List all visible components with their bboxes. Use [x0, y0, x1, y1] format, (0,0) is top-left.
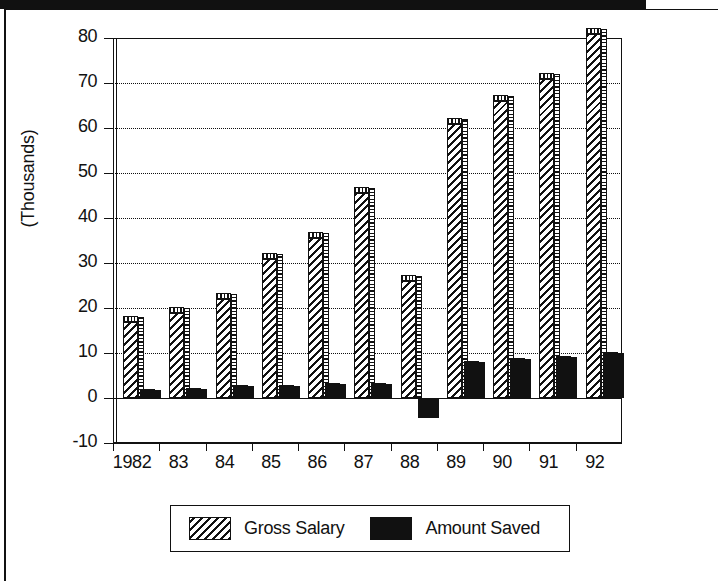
bar-gross-salary-89 — [447, 124, 462, 399]
x-axis-spine — [113, 443, 622, 444]
bar-face — [510, 364, 525, 398]
y-tick-40 — [104, 218, 113, 219]
y-tick-label-20: 20 — [37, 296, 97, 317]
y-tick-label-10: 10 — [37, 341, 97, 362]
bar-face — [586, 34, 601, 399]
bar-side-face — [248, 386, 254, 398]
y-axis-title: (Thousands) — [18, 79, 39, 279]
bar-side-face — [508, 96, 514, 398]
bar-amount-saved-90 — [510, 364, 525, 398]
y-tick-0 — [104, 398, 113, 399]
bar-side-face — [416, 276, 422, 398]
y-tick-80 — [104, 38, 113, 39]
amount-saved-swatch-icon — [370, 517, 412, 540]
bar-face — [216, 299, 231, 398]
x-tick-label-89: 89 — [433, 452, 479, 473]
bar-side-face — [369, 188, 375, 398]
x-tick-85 — [252, 443, 253, 451]
y-tick-label-60: 60 — [37, 116, 97, 137]
x-tick-label-92: 92 — [572, 452, 618, 473]
below-zero-region — [113, 400, 622, 443]
bar-gross-salary-88 — [401, 281, 416, 398]
x-tick-91 — [529, 443, 530, 451]
bar-side-face — [231, 294, 237, 398]
bar-face — [233, 391, 248, 398]
y-axis — [104, 0, 113, 588]
x-tick-label-90: 90 — [479, 452, 525, 473]
y-tick-10 — [104, 353, 113, 354]
bar-face — [603, 358, 618, 399]
bar-side-face — [618, 353, 624, 399]
bar-face — [262, 259, 277, 399]
x-tick-1982 — [113, 443, 114, 451]
zero-baseline — [113, 398, 622, 399]
bar-side-face — [277, 254, 283, 399]
bar-side-face — [433, 398, 439, 418]
bar-face — [556, 362, 571, 398]
bar-face — [354, 193, 369, 398]
gross-salary-swatch-icon — [189, 517, 231, 540]
bar-amount-saved-91 — [556, 362, 571, 398]
bar-face — [371, 389, 386, 398]
x-tick-label-87: 87 — [340, 452, 386, 473]
x-tick-label-1982: 1982 — [109, 452, 155, 473]
bar-face — [493, 101, 508, 398]
bar-gross-salary-1982 — [123, 322, 138, 399]
x-tick-label-85: 85 — [248, 452, 294, 473]
bar-amount-saved-89 — [464, 367, 479, 399]
x-tick-90 — [483, 443, 484, 451]
bar-amount-saved-85 — [279, 391, 294, 398]
x-tick-label-88: 88 — [387, 452, 433, 473]
bar-side-face — [479, 362, 485, 399]
bar-face — [539, 79, 554, 399]
x-tick-88 — [391, 443, 392, 451]
y-tick-70 — [104, 83, 113, 84]
bar-face — [447, 124, 462, 399]
x-tick-label-91: 91 — [525, 452, 571, 473]
bar-face — [401, 281, 416, 398]
y-tick-label-40: 40 — [37, 206, 97, 227]
bar-face — [464, 367, 479, 399]
y-tick-60 — [104, 128, 113, 129]
bar-side-face — [525, 359, 531, 398]
bar-face — [279, 391, 294, 398]
bar-side-face — [294, 386, 300, 398]
bar-side-face — [571, 357, 577, 398]
y-tick--10 — [104, 443, 113, 444]
y-tick-label-0: 0 — [37, 386, 97, 407]
bar-amount-saved-92 — [603, 358, 618, 399]
bar-side-face — [138, 317, 144, 399]
x-tick-84 — [206, 443, 207, 451]
legend-label-gross-salary: Gross Salary — [244, 518, 344, 539]
y-tick-label-80: 80 — [37, 26, 97, 47]
bar-side-face — [340, 384, 346, 398]
bar-side-face — [323, 233, 329, 398]
bar-gross-salary-92 — [586, 34, 601, 399]
bar-gross-salary-85 — [262, 259, 277, 399]
legend-item-gross-salary[interactable]: Gross Salary — [189, 517, 344, 540]
bar-amount-saved-84 — [233, 391, 248, 398]
bar-gross-salary-84 — [216, 299, 231, 398]
bar-gross-salary-83 — [169, 313, 184, 399]
bar-side-face — [155, 390, 161, 398]
y-tick-label-30: 30 — [37, 251, 97, 272]
bar-amount-saved-88 — [418, 398, 433, 418]
x-tick-89 — [437, 443, 438, 451]
y-tick-label-70: 70 — [37, 71, 97, 92]
legend-item-amount-saved[interactable]: Amount Saved — [370, 517, 539, 540]
x-tick-label-86: 86 — [294, 452, 340, 473]
bar-side-face — [554, 74, 560, 399]
y-tick-label-50: 50 — [37, 161, 97, 182]
y-tick-label--10: -10 — [37, 431, 97, 452]
y-tick-30 — [104, 263, 113, 264]
bar-side-face — [462, 119, 468, 399]
x-tick-86 — [298, 443, 299, 451]
x-tick-83 — [159, 443, 160, 451]
bar-amount-saved-86 — [325, 389, 340, 398]
bar-face — [123, 322, 138, 399]
bar-gross-salary-87 — [354, 193, 369, 398]
bar-side-face — [386, 384, 392, 398]
bar-face — [169, 313, 184, 399]
x-tick-label-83: 83 — [155, 452, 201, 473]
bar-face — [308, 238, 323, 398]
